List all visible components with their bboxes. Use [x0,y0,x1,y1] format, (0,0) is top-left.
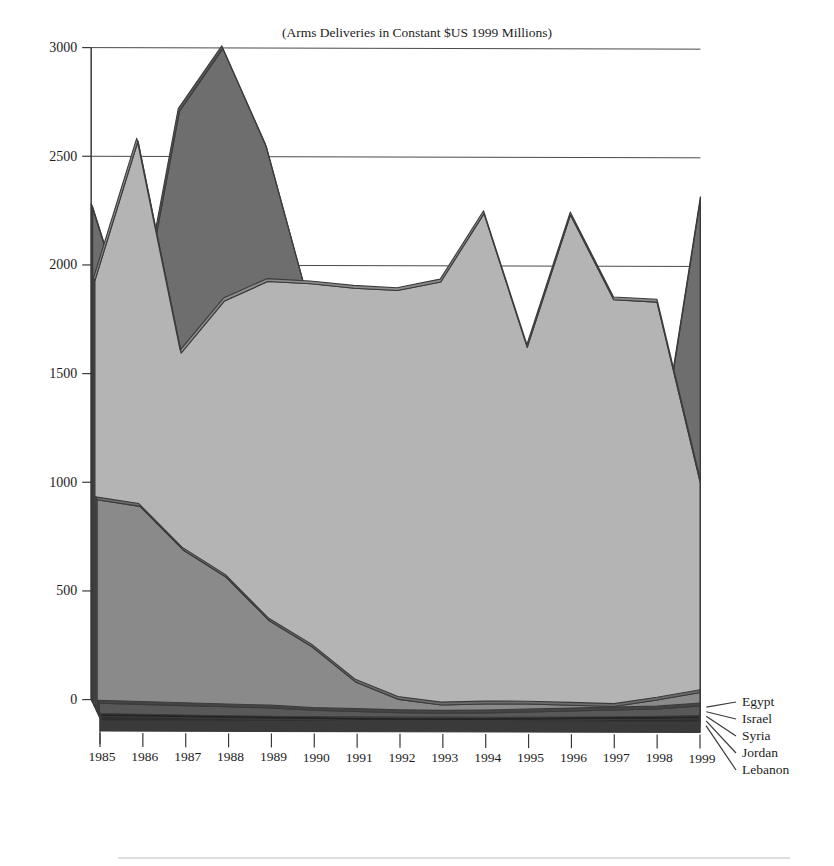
legend-label-jordan: Jordan [742,745,778,760]
y-axis-label-1500: 1500 [49,366,77,381]
legend-leader-israel [706,712,736,719]
legend-label-egypt: Egypt [742,694,774,709]
y-axis-label-1000: 1000 [49,475,77,490]
legend-label-lebanon: Lebanon [742,762,789,777]
x-axis-label-1998: 1998 [646,750,673,765]
x-axis-label-1993: 1993 [431,750,458,765]
x-axis-label-1997: 1997 [603,750,630,765]
series-endcap-left-syria [96,497,97,712]
series-endcap-left-jordan [98,700,99,716]
area-chart-3d: (Arms Deliveries in Constant $US 1999 Mi… [0,0,834,866]
legend-label-israel: Israel [742,711,772,726]
x-axis-label-1989: 1989 [260,749,287,764]
legend-group: EgyptIsraelSyriaJordanLebanon [706,694,789,777]
x-axis-label-1992: 1992 [389,750,416,765]
x-axis-label-1996: 1996 [560,750,587,765]
y-axis-label-2500: 2500 [49,149,77,164]
x-axis-label-1988: 1988 [217,749,244,764]
x-axis-label-1986: 1986 [131,749,158,764]
x-axis-label-1999: 1999 [689,751,716,766]
legend-label-syria: Syria [742,728,771,743]
x-axis-label-1985: 1985 [89,749,116,764]
y-axis-label-3000: 3000 [49,40,77,55]
y-axis-label-500: 500 [56,583,77,598]
y-axis-label-0: 0 [70,692,77,707]
chart-container: (Arms Deliveries in Constant $US 1999 Mi… [0,0,834,866]
x-axis-labels-group: 1985198619871988198919901991199219931994… [89,749,716,766]
x-axis-label-1995: 1995 [517,750,544,765]
chart-title: (Arms Deliveries in Constant $US 1999 Mi… [282,25,552,40]
gridline-3000 [91,48,700,50]
x-axis-label-1994: 1994 [474,750,501,765]
series-endcap-left-israel [93,278,94,707]
series-group [91,46,700,723]
x-axis-label-1991: 1991 [346,750,373,765]
x-axis-label-1990: 1990 [303,750,330,765]
legend-leader-egypt [706,702,736,707]
x-axis-label-1987: 1987 [174,749,201,764]
y-axis-labels-group: 050010001500200025003000 [49,40,77,707]
y-axis-label-2000: 2000 [49,257,77,272]
